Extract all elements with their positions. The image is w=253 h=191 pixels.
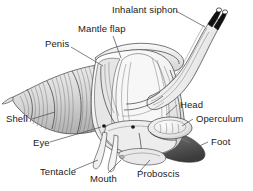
label-eye: Eye xyxy=(33,137,50,148)
label-tentacle: Tentacle xyxy=(40,166,76,177)
label-proboscis: Proboscis xyxy=(137,168,180,179)
label-operculum: Operculum xyxy=(196,113,243,124)
snail-anatomy-diagram: Inhalant siphon Mantle flap Penis Shell … xyxy=(0,0,253,191)
label-penis: Penis xyxy=(45,38,69,49)
label-head: Head xyxy=(180,99,203,110)
label-mouth: Mouth xyxy=(90,173,117,184)
label-shell: Shell xyxy=(6,113,28,124)
leader-inhalant-siphon xyxy=(176,11,205,27)
label-foot: Foot xyxy=(211,136,231,147)
label-inhalant-siphon: Inhalant siphon xyxy=(112,4,178,15)
label-mantle-flap: Mantle flap xyxy=(78,23,126,34)
snail-illustration: Inhalant siphon Mantle flap Penis Shell … xyxy=(0,0,253,191)
